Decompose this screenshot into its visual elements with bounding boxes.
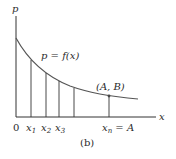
origin-label: 0: [13, 122, 19, 133]
tick-label-x3: x3: [55, 122, 66, 135]
diagram-canvas: p x 0 p = f(x) (A, B) x1 x2 x3 xn = A (b…: [0, 0, 176, 159]
tick-label-x2: x2: [41, 122, 52, 135]
figure-caption: (b): [80, 137, 94, 148]
point-ab-marker: [108, 95, 111, 98]
y-axis-label: p: [12, 3, 19, 14]
point-ab-label: (A, B): [96, 81, 125, 92]
tick-label-x1: x1: [26, 122, 36, 135]
curve-label: p = f(x): [41, 50, 79, 61]
tick-label-xn: xn = A: [102, 122, 134, 135]
x-axis-label: x: [159, 111, 165, 122]
